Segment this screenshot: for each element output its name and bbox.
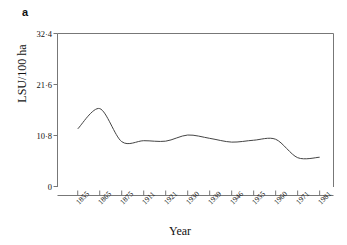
axis-ticks — [54, 34, 320, 196]
x-axis-title: Year — [120, 224, 240, 239]
y-tick-label: 32·4 — [8, 29, 52, 39]
y-tick-label: 10·8 — [8, 131, 52, 141]
axes-frame — [58, 34, 334, 196]
y-tick-label: 0 — [8, 182, 52, 192]
figure-panel: a LSU/100 ha Year 010·821·632·4 18551865… — [0, 0, 347, 245]
data-series-line — [78, 108, 320, 158]
y-tick-label: 21·6 — [8, 80, 52, 90]
line-chart-plot — [0, 0, 347, 245]
